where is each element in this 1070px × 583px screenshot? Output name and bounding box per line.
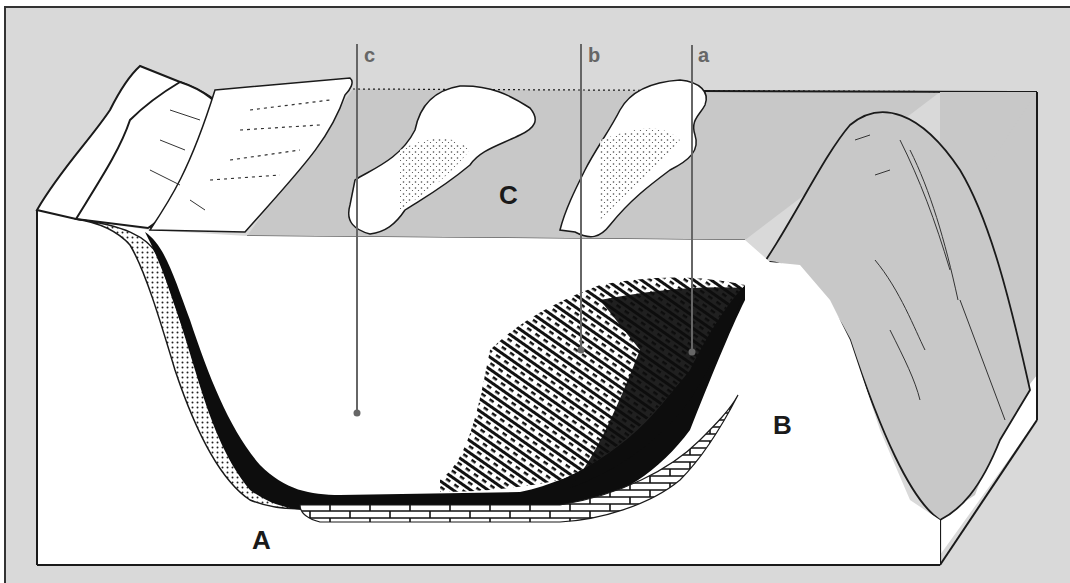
leader-dot-c (354, 410, 361, 417)
block-diagram: c b a C B A (0, 0, 1070, 583)
label-a: a (698, 44, 710, 66)
leader-dot-b (578, 347, 585, 354)
label-b: b (588, 44, 600, 66)
label-c: c (364, 44, 375, 66)
label-region-C: C (499, 180, 518, 210)
label-region-B: B (773, 410, 792, 440)
label-region-A: A (252, 525, 271, 555)
leader-dot-a (689, 349, 696, 356)
